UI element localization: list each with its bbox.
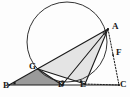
vertex-dot-g bbox=[37, 68, 39, 70]
vertex-dot-f bbox=[112, 54, 114, 56]
point-label-g: G bbox=[29, 62, 36, 71]
point-label-e: E bbox=[80, 80, 86, 89]
angle-mark-B bbox=[13, 82, 15, 84]
geometry-figure: ABCDEFG bbox=[0, 0, 130, 97]
vertex-dot-a bbox=[107, 28, 109, 30]
point-label-c: C bbox=[120, 80, 127, 89]
point-label-b: B bbox=[3, 81, 9, 90]
point-label-a: A bbox=[112, 22, 119, 31]
geometry-canvas bbox=[0, 0, 130, 97]
point-label-f: F bbox=[116, 48, 122, 57]
segment-A-C bbox=[108, 29, 119, 85]
point-label-d: D bbox=[58, 80, 65, 89]
